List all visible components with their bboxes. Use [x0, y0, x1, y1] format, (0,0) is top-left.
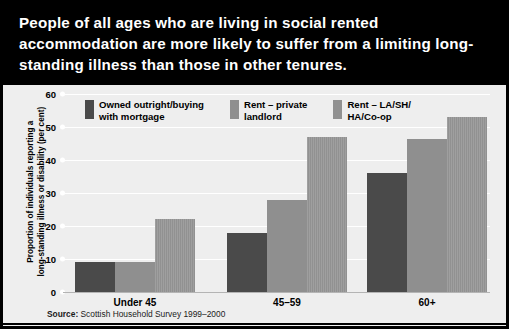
- legend-label: Rent – LA/SH/ HA/Co-op: [347, 99, 410, 123]
- chart-figure: People of all ages who are living in soc…: [0, 0, 509, 329]
- y-axis-tick-label: 20: [30, 221, 56, 232]
- x-axis-category-label: 45–59: [227, 297, 347, 308]
- source-text: Scottish Household Survey 1999–2000: [78, 309, 225, 319]
- y-axis-tick-label: 10: [30, 254, 56, 265]
- legend-swatch-icon: [333, 100, 342, 119]
- bar-1-group-3: [367, 173, 407, 292]
- page-title: People of all ages who are living in soc…: [19, 12, 492, 75]
- legend-swatch-icon: [230, 100, 239, 119]
- bar-1-group-1: [75, 262, 115, 292]
- y-axis-tick-label: 40: [30, 155, 56, 166]
- x-axis-line: [63, 292, 490, 293]
- bar-1-group-2: [227, 233, 267, 292]
- bottom-rule: [3, 323, 506, 325]
- y-axis-ticks: 0102030405060: [23, 94, 56, 292]
- y-axis-tick-label: 0: [30, 287, 56, 298]
- source-label: Source:: [47, 309, 78, 319]
- gridline: [63, 127, 490, 128]
- plot-area: [63, 94, 490, 292]
- y-axis-tick-label: 30: [30, 188, 56, 199]
- chart-panel: Proportion of individuals reporting alon…: [3, 85, 506, 326]
- legend-item-3: Rent – LA/SH/ HA/Co-op: [333, 99, 410, 123]
- bar-2-group-3: [407, 139, 447, 292]
- legend-item-2: Rent – private landlord: [230, 99, 307, 123]
- title-banner: People of all ages who are living in soc…: [3, 3, 506, 85]
- legend-item-1: Owned outright/buying with mortgage: [85, 99, 204, 123]
- bar-3-group-1: [155, 219, 195, 292]
- gridline: [63, 94, 490, 95]
- bar-2-group-2: [267, 200, 307, 292]
- chart-legend: Owned outright/buying with mortgageRent …: [85, 99, 411, 123]
- legend-label: Rent – private landlord: [244, 99, 307, 123]
- y-axis-tick-label: 50: [30, 122, 56, 133]
- y-axis-tick-label: 60: [30, 89, 56, 100]
- bar-3-group-2: [307, 137, 347, 292]
- bar-2-group-1: [115, 262, 155, 292]
- x-axis-category-label: 60+: [367, 297, 487, 308]
- bar-3-group-3: [447, 117, 487, 292]
- legend-label: Owned outright/buying with mortgage: [99, 99, 204, 123]
- legend-swatch-icon: [85, 100, 94, 119]
- source-note: Source: Scottish Household Survey 1999–2…: [47, 309, 225, 319]
- x-axis-category-label: Under 45: [75, 297, 195, 308]
